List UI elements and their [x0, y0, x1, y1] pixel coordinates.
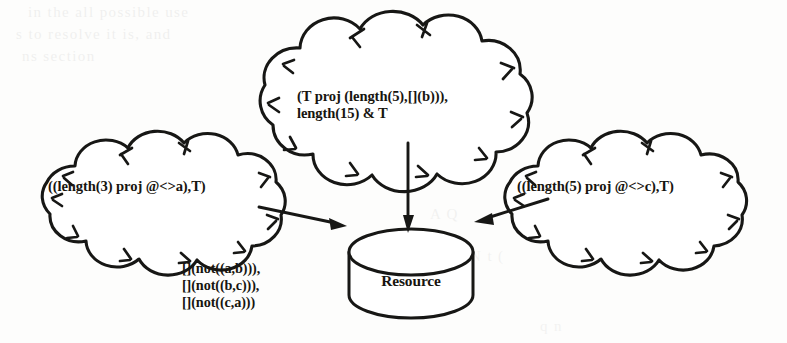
cloud-right-label: ((length(5) proj @<>c),T) [517, 178, 674, 195]
figure-canvas: in the all possible use s to resolve it … [0, 0, 787, 343]
cloud-left-label: ((length(3) proj @<>a),T) [48, 178, 206, 195]
resource-label: Resource [355, 272, 467, 290]
constraint-line-3: [](not((c,a))) [182, 294, 255, 310]
cloud-right [505, 131, 747, 275]
cloud-top-label: (T proj (length(5),[](b))), length(15) &… [297, 88, 448, 122]
diagram-svg [0, 0, 787, 343]
cloud-left [42, 131, 285, 275]
cloud-top-line-1: (T proj (length(5),[](b))), [297, 88, 448, 104]
constraint-line-2: [](not((b,c))), [182, 277, 259, 293]
constraints-label: [](not((a,b))), [](not((b,c))), [](not((… [182, 260, 260, 310]
cloud-top-line-2: length(15) & T [297, 105, 388, 121]
constraint-line-1: [](not((a,b))), [182, 260, 260, 276]
